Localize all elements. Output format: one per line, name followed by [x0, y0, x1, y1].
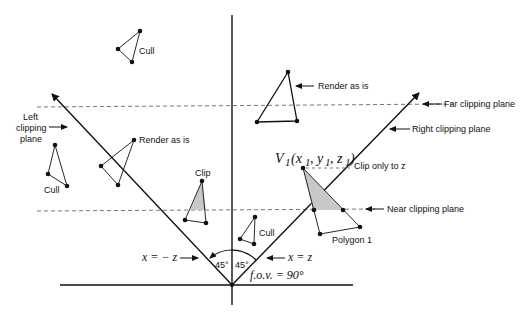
clip-label: Clip	[195, 168, 211, 178]
svg-text:1: 1	[285, 156, 291, 168]
svg-text:(x: (x	[291, 151, 303, 167]
left-plane-label-2: clipping	[16, 123, 47, 133]
x-z-label: x = z	[287, 250, 312, 264]
clip-triangle	[183, 179, 209, 226]
render-triangle-top	[255, 70, 300, 125]
cull-triangle-center	[238, 215, 258, 247]
svg-text:, z: , z	[330, 151, 343, 166]
fov-arc	[210, 250, 256, 260]
svg-text:): )	[349, 151, 355, 167]
left-plane-label-3: plane	[20, 134, 42, 144]
right-plane-label: Right clipping plane	[412, 124, 491, 134]
vertex-v1-label: V 1 (x 1 , y 1 , z 1 )	[275, 151, 355, 168]
origin-point	[230, 283, 234, 287]
cull-label-left: Cull	[44, 185, 60, 195]
svg-text:, y: , y	[310, 151, 324, 166]
frustum-diagram: Cull Left clipping plane Cull Render as …	[0, 0, 530, 320]
polygon-1	[301, 166, 363, 237]
clip-only-z-label: Clip only to z	[354, 161, 406, 171]
far-plane-label: Far clipping plane	[444, 99, 515, 109]
render-label-left: Render as is	[139, 135, 190, 145]
render-label-top: Render as is	[318, 81, 369, 91]
angle-right-label: 45°	[235, 260, 249, 270]
cull-label-center: Cull	[259, 228, 275, 238]
cull-triangle-left	[46, 143, 70, 189]
far-clipping-plane-line	[37, 104, 455, 107]
polygon-1-label: Polygon 1	[332, 235, 372, 245]
x-neg-z-label: x = − z	[141, 250, 178, 264]
near-plane-label: Near clipping plane	[387, 204, 464, 214]
left-plane-label-1: Left	[23, 112, 39, 122]
cull-label-top: Cull	[139, 46, 155, 56]
fov-label: f.o.v. = 90°	[250, 268, 304, 282]
angle-left-label: 45°	[215, 260, 229, 270]
svg-text:V: V	[275, 151, 285, 166]
